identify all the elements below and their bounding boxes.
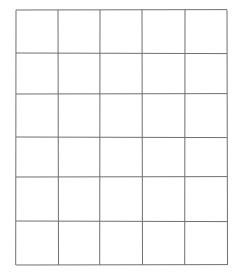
grid-vertical-line	[227, 10, 228, 265]
grid-horizontal-line	[16, 53, 227, 54]
grid-horizontal-line	[16, 221, 227, 222]
grid-horizontal-line	[16, 137, 227, 138]
hand-drawn-grid	[0, 0, 238, 275]
